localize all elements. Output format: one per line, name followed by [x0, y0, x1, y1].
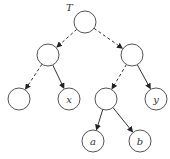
edge-root-R [94, 28, 122, 48]
edge-R-RR [137, 65, 150, 89]
edge-R-RL [112, 64, 126, 88]
edge-L-LR [53, 65, 64, 88]
node-circle [37, 44, 59, 66]
node-circle [121, 44, 143, 66]
tree-node-root [74, 11, 96, 33]
tree-nodes: xyab [8, 11, 167, 152]
tree-node-L [37, 44, 59, 66]
root-label-T: T [66, 2, 74, 13]
tree-node-R [121, 44, 143, 66]
edge-root-L [57, 29, 77, 47]
node-label: y [152, 94, 159, 105]
tree-node-LR: x [58, 88, 80, 110]
edge-L-LL [26, 64, 42, 89]
node-label: x [66, 94, 72, 105]
tree-svg: xyab T [0, 0, 170, 159]
tree-node-RR: y [145, 88, 167, 110]
tree-node-RL [95, 88, 117, 110]
node-circle [8, 88, 30, 110]
node-circle [95, 88, 117, 110]
edge-RL-RLL [97, 110, 103, 130]
node-label: a [90, 136, 96, 147]
tree-node-RLL: a [82, 130, 104, 152]
tree-node-RLR: b [129, 130, 151, 152]
tree-node-LL [8, 88, 30, 110]
edge-RL-RLR [113, 108, 133, 132]
node-label: b [137, 136, 143, 147]
tree-diagram: xyab T [0, 0, 170, 159]
node-circle [74, 11, 96, 33]
